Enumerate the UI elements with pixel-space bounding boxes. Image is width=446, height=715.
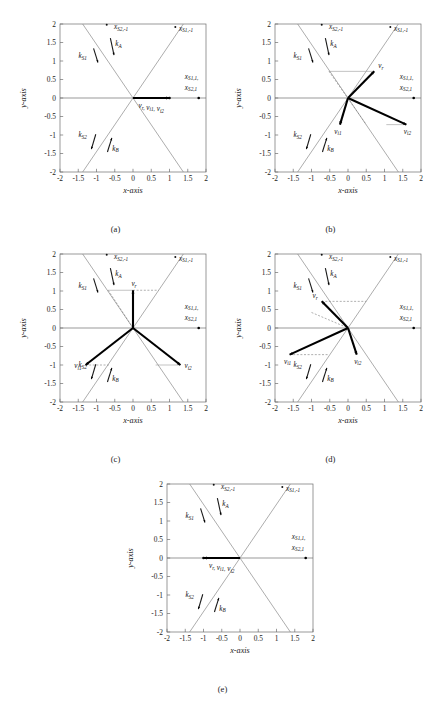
x-axis-title: x-axis [337, 186, 358, 195]
axis-endpoint-labels: xS2,-1xS1,-1xS1,1,xS2,1 [106, 23, 199, 92]
axis-endpoint-labels: xS2,-1xS1,-1xS1,1,xS2,1 [321, 253, 414, 322]
x-tick-label: -1.5 [287, 174, 299, 183]
y-tick-label: 0.5 [262, 75, 272, 84]
y-axis-title: y-axis [126, 548, 135, 569]
y-axis-title: y-axis [234, 88, 243, 109]
y-tick-label: 2 [267, 250, 271, 259]
axis-endpoint-labels: xS2,-1xS1,-1xS1,1,xS2,1 [213, 483, 306, 552]
svg-text:kB: kB [327, 145, 334, 154]
svg-text:kS1: kS1 [78, 52, 87, 61]
svg-text:xS1,1,: xS1,1, [399, 73, 414, 82]
x-tick-label: 1 [168, 404, 172, 413]
panel-caption-b: (b) [229, 224, 432, 234]
k-vector-annotations: kAkS1kS2kB [185, 498, 229, 613]
y-tick-label: -0.5 [259, 112, 271, 121]
axis-endpoint-labels: xS2,-1xS1,-1xS1,1,xS2,1 [106, 253, 199, 322]
svg-text:kS2: kS2 [293, 131, 302, 140]
svg-text:xS1,1,: xS1,1, [184, 73, 199, 82]
panel-b: -2-2-1.5-1.5-1-1-0.5-0.5000.50.5111.51.5… [229, 14, 432, 226]
x-tick-label: 2 [311, 634, 315, 643]
vector-v_i2 [348, 328, 357, 355]
k-vector-annotations: kAkS1kS2kB [293, 268, 337, 383]
x-tick-label: -1.5 [287, 404, 299, 413]
x-axis-title: x-axis [337, 416, 358, 425]
svg-text:kA: kA [115, 40, 122, 49]
x-tick-label: 2 [204, 404, 208, 413]
svg-text:kB: kB [112, 145, 119, 154]
axis-ticks: -2-2-1.5-1.5-1-1-0.5-0.5000.50.5111.51.5… [259, 20, 423, 183]
x-tick-label: -1.5 [179, 634, 191, 643]
svg-text:kS1: kS1 [293, 282, 302, 291]
k-b-arrowhead [325, 138, 327, 141]
y-tick-label: 0 [267, 94, 271, 103]
y-tick-label: -2 [265, 398, 271, 407]
x-tick-label: 0 [346, 404, 350, 413]
y-tick-label: -2 [265, 168, 271, 177]
x-tick-label: 1.5 [398, 404, 408, 413]
svg-text:kS1: kS1 [78, 282, 87, 291]
k-vector-annotations: kAkS1kS2kB [78, 268, 122, 383]
k-a-arrow [217, 498, 221, 515]
panel-caption-c: (c) [14, 454, 217, 464]
y-tick-label: -1 [50, 131, 56, 140]
y-tick-label: 2 [159, 480, 163, 489]
axis-marker [412, 327, 415, 330]
svg-text:xS1,1,: xS1,1, [291, 533, 306, 542]
x-tick-label: 1 [383, 174, 387, 183]
panel-caption-d: (d) [229, 454, 432, 464]
x-tick-label: 1.5 [183, 174, 193, 183]
axis-endpoint-labels: xS2,-1xS1,-1xS1,1,xS2,1 [321, 23, 414, 92]
vector-label: vr [378, 62, 384, 71]
y-tick-label: -1.5 [151, 609, 163, 618]
k-s1-arrowhead [96, 60, 98, 63]
vector-v_i2 [133, 328, 180, 365]
y-axis-title: y-axis [234, 318, 243, 339]
x-tick-label: 0 [238, 634, 242, 643]
y-axis-title: y-axis [19, 88, 28, 109]
vectors: vrvi1vi2 [74, 280, 192, 370]
y-tick-label: -1.5 [259, 379, 271, 388]
x-tick-label: -2 [272, 404, 278, 413]
x-tick-label: -2 [164, 634, 170, 643]
k-s1-arrowhead [311, 60, 313, 63]
vector-label: vi1 [284, 358, 292, 367]
svg-text:xS2,1: xS2,1 [399, 314, 413, 323]
x-tick-label: 0.5 [362, 174, 372, 183]
k-a-arrow [325, 38, 329, 55]
panel-a: -2-2-1.5-1.5-1-1-0.5-0.5000.50.5111.51.5… [14, 14, 217, 226]
axis-ticks: -2-2-1.5-1.5-1-1-0.5-0.5000.50.5111.51.5… [44, 250, 208, 413]
svg-text:kS1: kS1 [293, 52, 302, 61]
y-tick-label: -0.5 [44, 112, 56, 121]
panel-d: -2-2-1.5-1.5-1-1-0.5-0.5000.50.5111.51.5… [229, 244, 432, 456]
svg-text:kB: kB [112, 375, 119, 384]
svg-text:xS2,1: xS2,1 [291, 544, 305, 553]
x-tick-label: -2 [57, 404, 63, 413]
y-tick-label: -1.5 [44, 379, 56, 388]
vector-label: vr [131, 280, 137, 289]
panel-caption-e: (e) [121, 684, 324, 694]
x-tick-label: 1.5 [183, 404, 193, 413]
y-tick-label: 1 [52, 57, 56, 66]
svg-text:kA: kA [330, 270, 337, 279]
x-tick-label: 2 [419, 404, 423, 413]
vector-v_r [348, 71, 374, 98]
svg-text:xS1,1,: xS1,1, [399, 303, 414, 312]
vector-label: vi2 [184, 362, 192, 371]
k-s1-arrowhead [96, 290, 98, 293]
plot-a: -2-2-1.5-1.5-1-1-0.5-0.5000.50.5111.51.5… [14, 14, 217, 226]
y-tick-label: 0.5 [47, 305, 57, 314]
vector-label: vr, vi1, vi2 [209, 562, 235, 574]
x-axis-title: x-axis [122, 186, 143, 195]
vectors: vr, vi1, vi2 [204, 557, 241, 574]
k-a-arrow [110, 38, 114, 55]
y-tick-label: -1.5 [259, 149, 271, 158]
svg-text:xS1,-1: xS1,-1 [178, 255, 193, 264]
vector-v_i1 [340, 98, 348, 125]
x-tick-label: -0.5 [109, 174, 121, 183]
y-axis-title: y-axis [19, 318, 28, 339]
y-tick-label: -1 [265, 361, 271, 370]
y-tick-label: 1.5 [262, 38, 272, 47]
x-tick-label: -1 [308, 404, 314, 413]
x-tick-label: -1 [93, 174, 99, 183]
svg-text:xS1,1,: xS1,1, [184, 303, 199, 312]
